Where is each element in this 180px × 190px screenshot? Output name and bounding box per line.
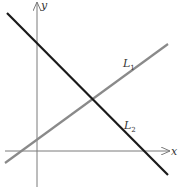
line-l1-label-sub: 1 <box>130 64 134 72</box>
line-l1-label: L1 <box>122 57 135 72</box>
line-l1-label-main: L <box>122 57 130 70</box>
coordinate-diagram: x y L1 L2 <box>0 0 180 190</box>
line-l2-label: L2 <box>123 119 136 134</box>
line-l2-label-main: L <box>123 119 131 132</box>
x-axis-label: x <box>171 145 178 158</box>
y-axis-label: y <box>40 0 48 12</box>
line-l2-label-sub: 2 <box>131 126 135 134</box>
line-l1 <box>5 44 168 163</box>
